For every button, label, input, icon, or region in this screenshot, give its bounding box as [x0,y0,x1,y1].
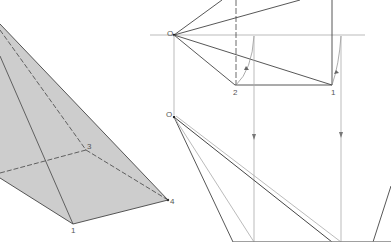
arrow-down-2 [252,134,256,140]
vertex-label-4: 4 [170,197,175,206]
arc-arrow-1 [334,70,339,74]
ray-o-1 [174,35,332,85]
label-o-top: O [167,29,173,38]
label-o-bottom: O [166,110,172,119]
ray-o-2 [174,35,235,85]
point-o-bottom [173,116,175,118]
pyramid-figure: 3 4 1 [0,24,175,235]
arrow-down-1 [339,132,343,138]
ray-o-up-right [174,0,300,35]
label-1: 1 [331,88,336,97]
elevation-view: O [166,110,391,242]
ray-o-up-left [174,0,222,35]
rotation-arc-1 [332,36,341,85]
elev-true-length-1 [176,116,341,242]
elev-right-edge [373,186,391,242]
rotation-arc-2 [236,36,254,85]
geometry-drawing: 3 4 1 O 2 1 O [0,0,391,242]
vertex-4-dot [167,199,169,201]
vertex-label-3: 3 [87,142,92,151]
elev-true-length-2 [174,117,254,242]
plan-view: O 2 1 [150,0,365,97]
vertex-label-1: 1 [71,226,76,235]
label-2: 2 [233,88,238,97]
elev-edge-left [174,117,233,242]
projection-lines [174,35,343,242]
